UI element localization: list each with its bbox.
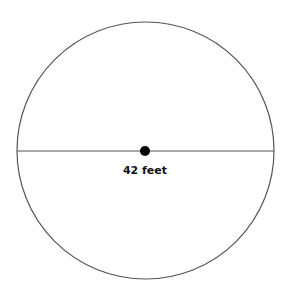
center-point [140,146,150,156]
circle-diagram: 42 feet [0,0,288,300]
diameter-label: 42 feet [123,164,167,177]
